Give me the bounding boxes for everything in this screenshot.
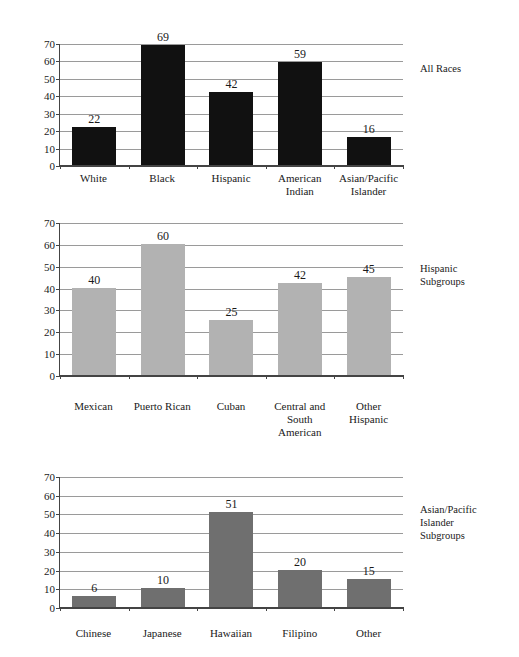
bar: 15: [347, 579, 391, 607]
y-axis-tick-label: 60: [25, 239, 55, 250]
bar-value-label: 42: [294, 269, 306, 281]
bar: 20: [278, 570, 322, 607]
y-axis-tick-label: 10: [25, 584, 55, 595]
bar-value-label: 22: [88, 113, 100, 125]
x-axis-tick-mark: [129, 375, 130, 379]
bar-slot: 22: [60, 44, 129, 165]
x-axis-category-label: Hawaiian: [197, 627, 266, 640]
x-axis-category-label-line: South American: [266, 413, 333, 439]
y-axis-tick-label: 50: [25, 509, 55, 520]
bar: 51: [209, 512, 253, 607]
chart-all-races: 0102030405060702269425916WhiteBlackHispa…: [0, 0, 519, 212]
bar-value-label: 59: [294, 48, 306, 60]
x-axis-category-label-line: Chinese: [60, 627, 127, 640]
y-axis-tick-label: 70: [25, 472, 55, 483]
y-axis-tick-label: 70: [25, 218, 55, 229]
bar-slot: 16: [334, 44, 403, 165]
chart-side-caption-line: Subgroups: [420, 275, 519, 288]
x-axis-category-label: Japanese: [128, 627, 197, 640]
bar-value-label: 16: [363, 123, 375, 135]
x-axis-tick-mark: [334, 607, 335, 611]
y-axis-tick-label: 70: [25, 39, 55, 50]
bar-slot: 69: [129, 44, 198, 165]
bar: 16: [347, 137, 391, 165]
y-axis-tick-label: 0: [25, 161, 55, 172]
bar-value-label: 25: [225, 306, 237, 318]
bar: 59: [278, 62, 322, 165]
x-axis-category-label-line: Hispanic: [198, 172, 265, 185]
bar-value-label: 20: [294, 556, 306, 568]
x-axis-tick-mark: [197, 607, 198, 611]
bar: 6: [72, 596, 116, 607]
gridline: [60, 166, 403, 167]
x-axis-category-label-line: Mexican: [60, 400, 127, 413]
x-axis-category-label: Black: [128, 172, 197, 198]
x-axis-category-label: White: [59, 172, 128, 198]
x-axis-category-label-line: Asian/Pacific: [335, 172, 402, 185]
bar-slot: 6: [60, 477, 129, 607]
x-axis-category-label: Central andSouth American: [265, 400, 334, 439]
chart-side-caption-line: Subgroups: [420, 529, 519, 542]
x-axis-category-label-line: Black: [129, 172, 196, 185]
bar-slot: 45: [334, 223, 403, 375]
x-axis-category-label-line: Filipino: [266, 627, 333, 640]
x-axis-tick-mark: [403, 375, 404, 379]
x-axis-category-label: AmericanIndian: [265, 172, 334, 198]
x-axis-tick-mark: [60, 375, 61, 379]
bar-slot: 40: [60, 223, 129, 375]
bar-slot: 51: [197, 477, 266, 607]
x-axis-tick-mark: [197, 375, 198, 379]
y-axis-tick-label: 20: [25, 327, 55, 338]
bar-slot: 59: [266, 44, 335, 165]
plot-area: 010203040506070610512015: [59, 477, 403, 608]
x-axis-category-label: Chinese: [59, 627, 128, 640]
chart-side-caption: HispanicSubgroups: [420, 262, 519, 288]
bar-slot: 25: [197, 223, 266, 375]
bar: 22: [72, 127, 116, 165]
bar-value-label: 40: [88, 274, 100, 286]
y-axis-tick-label: 50: [25, 73, 55, 84]
x-axis-category-label-line: Other Hispanic: [335, 400, 402, 426]
x-axis-category-label-line: American: [266, 172, 333, 185]
chart-side-caption-line: Asian/Pacific: [420, 503, 519, 516]
y-axis-tick-label: 40: [25, 528, 55, 539]
y-axis-tick-label: 10: [25, 143, 55, 154]
x-axis-tick-mark: [129, 607, 130, 611]
bar-slot: 42: [266, 223, 335, 375]
x-axis-category-label-line: Hawaiian: [198, 627, 265, 640]
x-axis-category-label: Puerto Rican: [128, 400, 197, 439]
y-axis-tick-label: 20: [25, 126, 55, 137]
chart-hispanic-subgroups: 0102030405060704060254245MexicanPuerto R…: [0, 212, 519, 440]
y-axis-tick-label: 20: [25, 565, 55, 576]
bar-value-label: 69: [157, 31, 169, 43]
chart-side-caption-line: Islander: [420, 516, 519, 529]
chart-side-caption-line: Hispanic: [420, 262, 519, 275]
x-axis-tick-mark: [197, 165, 198, 169]
x-axis-category-label-line: Other: [335, 627, 402, 640]
x-axis-category-label: Other Hispanic: [334, 400, 403, 439]
x-axis-category-label-line: Japanese: [129, 627, 196, 640]
x-axis-tick-mark: [266, 165, 267, 169]
y-axis-tick-label: 30: [25, 546, 55, 557]
plot-frame: 0102030405060704060254245: [59, 223, 403, 376]
y-axis-tick-label: 0: [25, 603, 55, 614]
x-axis-category-label-line: Cuban: [198, 400, 265, 413]
bar-slot: 10: [129, 477, 198, 607]
x-axis-tick-mark: [266, 607, 267, 611]
x-axis-category-labels: WhiteBlackHispanicAmericanIndianAsian/Pa…: [59, 172, 403, 198]
bar-series: 4060254245: [60, 223, 403, 375]
bar: 10: [141, 588, 185, 607]
x-axis-category-label: Mexican: [59, 400, 128, 439]
x-axis-tick-mark: [334, 165, 335, 169]
y-axis-tick-label: 60: [25, 490, 55, 501]
bar: 42: [209, 92, 253, 165]
bar-value-label: 10: [157, 574, 169, 586]
x-axis-category-labels: MexicanPuerto RicanCubanCentral andSouth…: [59, 400, 403, 439]
x-axis-tick-mark: [403, 165, 404, 169]
x-axis-tick-mark: [266, 375, 267, 379]
bar-value-label: 42: [225, 78, 237, 90]
y-axis-tick-label: 30: [25, 305, 55, 316]
bar-slot: 20: [266, 477, 335, 607]
x-axis-category-label: Other: [334, 627, 403, 640]
chart-side-caption: All Races: [420, 62, 519, 75]
